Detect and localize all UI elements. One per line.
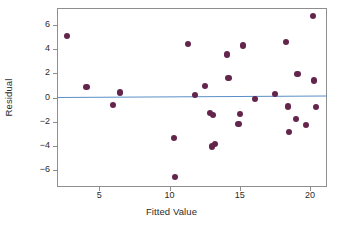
x-tick-label: 5 (87, 190, 111, 200)
x-tick-label: 20 (298, 190, 322, 200)
y-tick-label: −4 (28, 140, 50, 150)
y-tick-label: −2 (28, 116, 50, 126)
data-point (294, 71, 300, 77)
residual-plot-figure: Fitted Value Residual 5101520 6420−2−4−6 (0, 0, 343, 228)
x-tick-label: 10 (158, 190, 182, 200)
y-tick-label: 4 (28, 43, 50, 53)
y-tick-mark (53, 73, 57, 74)
y-tick-mark (53, 49, 57, 50)
data-point (310, 13, 316, 19)
y-tick-label: −6 (28, 164, 50, 174)
y-tick-label: 2 (28, 67, 50, 77)
data-point (192, 92, 198, 98)
y-tick-mark (53, 170, 57, 171)
data-point (64, 33, 70, 39)
data-point (235, 121, 241, 127)
y-tick-label: 6 (28, 19, 50, 29)
data-point (202, 83, 208, 89)
data-point (237, 111, 243, 117)
data-point (83, 84, 89, 90)
data-point (224, 51, 230, 57)
y-tick-mark (53, 146, 57, 147)
x-tick-label: 15 (228, 190, 252, 200)
x-axis-title: Fitted Value (0, 206, 343, 217)
data-point (303, 122, 309, 128)
data-point (272, 91, 278, 97)
data-point (285, 103, 291, 109)
data-point (117, 89, 123, 95)
y-axis-title: Residual (3, 68, 14, 128)
y-tick-mark (53, 25, 57, 26)
data-point (171, 135, 177, 141)
data-point (225, 75, 231, 81)
data-point (185, 41, 191, 47)
data-point (172, 174, 178, 180)
data-point (240, 42, 246, 48)
y-tick-label: 0 (28, 92, 50, 102)
y-tick-mark (53, 122, 57, 123)
